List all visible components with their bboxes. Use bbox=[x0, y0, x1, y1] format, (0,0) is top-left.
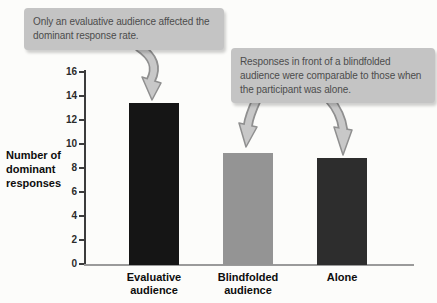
callout-blindfolded-alone-text: Responses in front of a blindfolded audi… bbox=[240, 56, 421, 95]
y-tick-mark bbox=[79, 95, 84, 97]
y-tick-mark bbox=[79, 239, 84, 241]
y-tick-label: 8 bbox=[53, 162, 77, 173]
y-tick-mark bbox=[79, 143, 84, 145]
y-tick-mark bbox=[79, 71, 84, 73]
x-label-evaluative-audience: Evaluative audience bbox=[116, 271, 192, 297]
y-tick-label: 2 bbox=[53, 234, 77, 245]
figure-bar-chart: Only an evaluative audience affected the… bbox=[0, 0, 437, 303]
callout-blindfolded-alone: Responses in front of a blindfolded audi… bbox=[231, 48, 435, 103]
callout-evaluative-text: Only an evaluative audience affected the… bbox=[33, 16, 210, 41]
y-tick-label: 6 bbox=[53, 186, 77, 197]
bar-blindfolded-audience bbox=[223, 153, 273, 265]
y-tick-mark bbox=[79, 215, 84, 217]
y-tick-mark bbox=[79, 119, 84, 121]
y-tick-mark bbox=[79, 191, 84, 193]
y-tick-mark bbox=[79, 263, 84, 265]
x-label-blindfolded-audience: Blindfolded audience bbox=[210, 271, 286, 297]
bar-evaluative-audience bbox=[129, 103, 179, 265]
y-tick-label: 4 bbox=[53, 210, 77, 221]
y-tick-label: 0 bbox=[53, 258, 77, 269]
callout-evaluative: Only an evaluative audience affected the… bbox=[24, 8, 224, 50]
y-tick-label: 12 bbox=[53, 114, 77, 125]
y-tick-label: 14 bbox=[53, 90, 77, 101]
bar-alone bbox=[317, 158, 367, 265]
y-axis-line bbox=[84, 70, 86, 266]
y-tick-label: 16 bbox=[53, 66, 77, 77]
x-label-alone: Alone bbox=[304, 271, 380, 284]
y-tick-mark bbox=[79, 167, 84, 169]
y-tick-label: 10 bbox=[53, 138, 77, 149]
